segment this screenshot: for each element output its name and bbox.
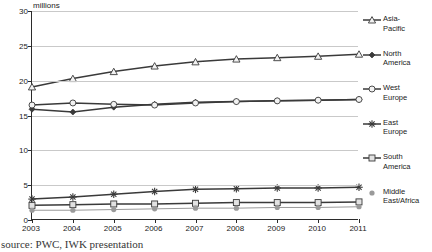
data-point	[69, 193, 77, 201]
x-tick-label: 2003	[14, 224, 48, 233]
data-point	[110, 190, 118, 198]
x-tick-label: 2008	[218, 224, 252, 233]
legend-item-north-america[interactable]: North America	[362, 49, 432, 68]
legend-marker-star-icon	[362, 118, 382, 130]
x-axis-tick-labels: 200320042005200620072008200920102011	[31, 224, 358, 236]
data-point	[233, 99, 239, 105]
data-point	[111, 201, 117, 207]
plot-area	[31, 11, 358, 220]
x-axis-tick	[32, 219, 33, 223]
legend-label: Asia- Pacific	[382, 14, 405, 33]
x-tick-label: 2009	[259, 224, 293, 233]
data-point	[70, 202, 76, 208]
x-axis-tick	[236, 219, 237, 223]
x-axis-tick	[196, 219, 197, 223]
legend-label: East Europe	[382, 118, 407, 137]
data-point	[193, 100, 199, 106]
source-note: source: PWC, IWK presentation	[1, 238, 143, 250]
legend-marker-glyph	[369, 155, 375, 161]
data-point	[29, 202, 35, 208]
data-point	[315, 200, 321, 206]
gridline	[32, 11, 358, 12]
legend-label: West Europe	[382, 83, 407, 102]
series-west-europe	[29, 96, 362, 108]
data-point	[192, 186, 200, 194]
data-point	[28, 195, 36, 203]
gridline	[32, 81, 358, 82]
x-axis-tick	[318, 219, 319, 223]
x-axis-tick	[73, 219, 74, 223]
data-point	[152, 201, 158, 207]
y-tick-label: 30	[4, 7, 28, 16]
y-axis-units-label: millions	[33, 1, 60, 10]
legend-item-south-america[interactable]: South America	[362, 152, 432, 171]
gridline	[32, 150, 358, 151]
legend-item-asia-pacific[interactable]: Asia- Pacific	[362, 14, 432, 33]
data-point	[275, 205, 280, 210]
legend-item-middle-east-africa[interactable]: Middle East/Africa	[362, 187, 432, 206]
data-point	[152, 102, 158, 108]
y-axis-tick-labels: 051015202530	[0, 0, 28, 252]
gridline	[32, 46, 358, 47]
legend-marker-glyph	[368, 120, 376, 128]
data-point	[152, 206, 157, 211]
gridline	[32, 116, 358, 117]
legend-marker-square-icon	[362, 152, 382, 164]
data-point	[70, 100, 76, 106]
data-point	[151, 188, 159, 196]
data-point	[70, 208, 75, 213]
data-point	[315, 97, 321, 103]
legend-marker-circle-icon	[362, 83, 382, 95]
data-point	[193, 206, 198, 211]
legend-label: North America	[382, 49, 411, 68]
legend-marker-glyph	[369, 52, 375, 58]
y-tick-label: 5	[4, 181, 28, 190]
data-point	[356, 204, 361, 209]
legend-item-east-europe[interactable]: East Europe	[362, 118, 432, 137]
data-point	[193, 200, 199, 206]
legend-marker-glyph	[369, 190, 374, 195]
data-point	[29, 102, 35, 108]
data-point	[29, 208, 34, 213]
x-axis-tick	[277, 219, 278, 223]
legend-marker-triangle-icon	[362, 14, 382, 26]
x-tick-label: 2004	[55, 224, 89, 233]
data-point	[274, 98, 280, 104]
data-point	[234, 206, 239, 211]
data-point	[111, 101, 117, 107]
legend-marker-glyph	[369, 86, 375, 92]
data-point	[316, 205, 321, 210]
legend-label: South America	[382, 152, 411, 171]
x-tick-label: 2007	[178, 224, 212, 233]
x-tick-label: 2010	[300, 224, 334, 233]
y-tick-label: 20	[4, 77, 28, 86]
chart-legend: Asia- PacificNorth AmericaWest EuropeEas…	[362, 14, 432, 226]
data-point	[111, 207, 116, 212]
legend-marker-dot-icon	[362, 187, 382, 199]
legend-marker-diamond-icon	[362, 49, 382, 61]
data-point	[274, 200, 280, 206]
series-asia-pacific	[28, 51, 362, 90]
y-tick-label: 25	[4, 42, 28, 51]
legend-item-west-europe[interactable]: West Europe	[362, 83, 432, 102]
gridline	[32, 185, 358, 186]
x-axis-tick	[359, 219, 360, 223]
x-axis-tick	[114, 219, 115, 223]
legend-label: Middle East/Africa	[382, 187, 419, 206]
line-chart: millions 051015202530 200320042005200620…	[0, 0, 432, 252]
data-point	[70, 109, 76, 115]
y-tick-label: 15	[4, 112, 28, 121]
data-point	[233, 200, 239, 206]
x-tick-label: 2006	[137, 224, 171, 233]
x-axis-tick	[155, 219, 156, 223]
x-tick-label: 2005	[96, 224, 130, 233]
y-tick-label: 10	[4, 146, 28, 155]
